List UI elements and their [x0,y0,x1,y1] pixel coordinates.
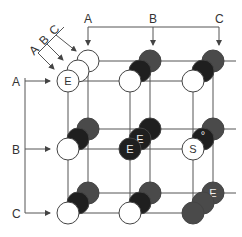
circle-white [57,202,79,224]
depth-label-a: A [26,42,42,58]
diagram-canvas: A B C A B C A B C EEE°SE [0,0,242,237]
node-stack-cb [119,182,161,224]
top-label-a: A [84,12,92,26]
cube-lattice-diagram: A B C A B C A B C EEE°SE [0,0,242,237]
node-stack-bb: EE [119,118,161,160]
left-axis: A B C [12,75,50,221]
left-label-b: B [12,143,20,157]
node-label: E [126,143,133,155]
node-label: E [64,75,71,87]
node-label: S [189,143,196,155]
depth-label-c: C [46,22,62,38]
node-stack-ac [182,50,224,92]
top-axis: A B C [84,12,224,45]
depth-label-b: B [36,32,52,48]
circle-white [119,70,141,92]
left-label-a: A [12,75,20,89]
node-stack-bc: °S [182,118,224,160]
circle-white [119,202,141,224]
circle-white [57,138,79,160]
left-label-c: C [12,207,21,221]
circle-gray [182,202,204,224]
node-stack-ca [57,182,99,224]
node-label: ° [201,129,205,141]
node-stack-ba [57,118,99,160]
lattice-nodes: EEE°SE [57,50,224,224]
node-stack-cc: E [182,182,224,224]
depth-axis: A B C [26,22,76,69]
node-stack-aa: E [57,50,99,92]
circle-white [182,70,204,92]
top-label-b: B [149,12,157,26]
top-label-c: C [215,12,224,26]
node-stack-ab [119,50,161,92]
